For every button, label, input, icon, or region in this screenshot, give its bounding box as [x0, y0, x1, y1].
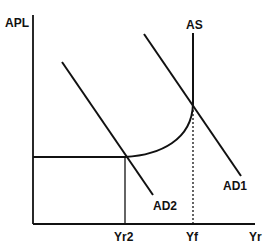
x-axis-label: Yr [249, 230, 262, 244]
yr2-tick-label: Yr2 [114, 230, 134, 244]
yf-tick-label: Yf [186, 230, 199, 244]
ad1-label: AD1 [223, 179, 247, 193]
as-curve [33, 33, 193, 157]
ad2-label: AD2 [153, 199, 177, 213]
ad-as-diagram: APL AS AD1 AD2 Yr2 Yf Yr [0, 0, 274, 249]
y-axis-label: APL [5, 16, 29, 30]
ad2-curve [62, 62, 153, 195]
as-label: AS [186, 18, 203, 32]
